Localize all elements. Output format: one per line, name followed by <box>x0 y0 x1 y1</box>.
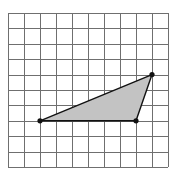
vertex-dot-b <box>133 118 138 123</box>
grid-diagram <box>0 0 175 175</box>
vertex-dot-a <box>37 118 42 123</box>
vertex-dot-c <box>149 72 154 77</box>
background <box>0 0 175 175</box>
